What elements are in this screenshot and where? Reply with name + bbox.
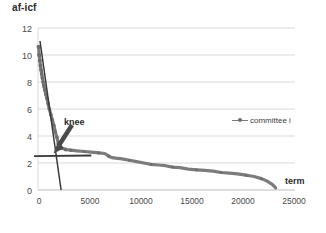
- plot-area: [0, 0, 326, 233]
- chart-container: af-icf 12 10 8 6 4 2 0 0 5000 10000 1500…: [0, 0, 326, 233]
- tangent-line-steep: [40, 41, 61, 190]
- data-markers: [37, 45, 263, 180]
- tangent-line-flat: [34, 156, 91, 157]
- data-series-committee-i: [39, 47, 276, 188]
